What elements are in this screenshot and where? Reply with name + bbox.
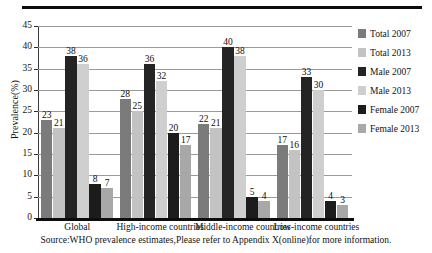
legend-label: Total 2007 [370,29,411,39]
legend-label: Male 2007 [370,67,411,77]
x-category-label: Middle-income countries [195,222,274,233]
y-tick-label: 10 [14,170,32,180]
bar-value-label: 4 [262,191,267,201]
y-tick-label: 45 [14,21,32,31]
bar: 40 [222,47,233,218]
bar: 21 [53,128,64,218]
bar-value-label: 17 [181,135,191,145]
y-tick-label: 20 [14,128,32,138]
y-tick-mark [34,111,38,112]
y-tick-label: 5 [14,192,32,202]
bar: 17 [277,145,288,218]
bar: 38 [234,56,245,218]
bar-value-label: 38 [235,46,245,56]
chart-legend: Total 2007Total 2013Male 2007Male 2013Fe… [358,24,432,138]
y-tick-label: 35 [14,64,32,74]
bar-value-label: 36 [145,54,155,64]
bar-value-label: 21 [54,118,64,128]
legend-item[interactable]: Total 2013 [358,43,432,62]
legend-label: Female 2007 [370,105,419,115]
legend-swatch-icon [358,29,366,38]
bar-value-label: 3 [340,195,345,205]
y-tick-mark [34,197,38,198]
x-category-label: Low-income countries [274,222,353,233]
bar-value-label: 4 [328,191,333,201]
x-axis-line [36,218,354,221]
y-tick-label: 25 [14,106,32,116]
plot-area: 2321383687282536322017222140385417163330… [38,26,352,218]
y-tick-mark [34,175,38,176]
bar: 22 [198,124,209,218]
bar-value-label: 38 [66,46,76,56]
y-tick-label: 40 [14,42,32,52]
bar: 23 [41,120,52,218]
bar: 16 [289,150,300,218]
bar-value-label: 33 [302,67,312,77]
bar: 32 [156,81,167,218]
x-category-label: Global [38,222,117,233]
bar: 36 [144,64,155,218]
bar-value-label: 7 [105,178,110,188]
y-tick-mark [34,26,38,27]
bar: 38 [65,56,76,218]
legend-item[interactable]: Female 2013 [358,119,432,138]
legend-label: Male 2013 [370,86,411,96]
bar-value-label: 32 [157,71,167,81]
bar: 7 [101,188,112,218]
y-tick-mark [34,69,38,70]
bar: 8 [89,184,100,218]
legend-swatch-icon [358,86,366,95]
bar: 30 [313,90,324,218]
bar-value-label: 21 [211,118,221,128]
y-tick-label: 0 [14,213,32,223]
bar-value-label: 22 [199,114,209,124]
y-tick-mark [34,133,38,134]
bar: 5 [246,197,257,218]
gridline [38,47,352,48]
y-tick-mark [34,47,38,48]
legend-swatch-icon [358,48,366,57]
bar-value-label: 36 [78,54,88,64]
bar: 25 [132,111,143,218]
legend-item[interactable]: Male 2013 [358,81,432,100]
legend-label: Total 2013 [370,48,411,58]
y-tick-mark [34,90,38,91]
bar-value-label: 17 [277,135,287,145]
legend-label: Female 2013 [370,124,419,134]
bar: 28 [120,99,131,218]
y-tick-label: 15 [14,149,32,159]
bar-value-label: 16 [290,140,300,150]
legend-item[interactable]: Male 2007 [358,62,432,81]
bar-value-label: 5 [250,187,255,197]
bar: 17 [180,145,191,218]
bar-value-label: 40 [223,37,233,47]
y-tick-mark [34,218,38,219]
legend-swatch-icon [358,67,366,76]
bar-value-label: 8 [93,174,98,184]
y-tick-label: 30 [14,85,32,95]
bar-value-label: 28 [120,89,130,99]
bar: 33 [301,77,312,218]
bar: 21 [210,128,221,218]
source-note: Source:WHO prevalence estimates,Please r… [0,235,432,246]
x-axis-categories: GlobalHigh-income countriesMiddle-income… [38,222,352,234]
grouped-bar-chart: Prevalence(%) 23213836872825363220172221… [0,0,432,253]
x-category-label: High-income countries [117,222,196,233]
bar: 36 [77,64,88,218]
legend-item[interactable]: Female 2007 [358,100,432,119]
bar-value-label: 30 [314,80,324,90]
legend-item[interactable]: Total 2007 [358,24,432,43]
bar: 4 [258,201,269,218]
bar-value-label: 20 [169,123,179,133]
bar-value-label: 23 [42,110,52,120]
legend-swatch-icon [358,105,366,114]
gridline [38,26,352,27]
bar: 4 [325,201,336,218]
bar-value-label: 25 [133,101,143,111]
bar: 3 [337,205,348,218]
bar: 20 [168,133,179,218]
y-tick-mark [34,154,38,155]
legend-swatch-icon [358,124,366,133]
